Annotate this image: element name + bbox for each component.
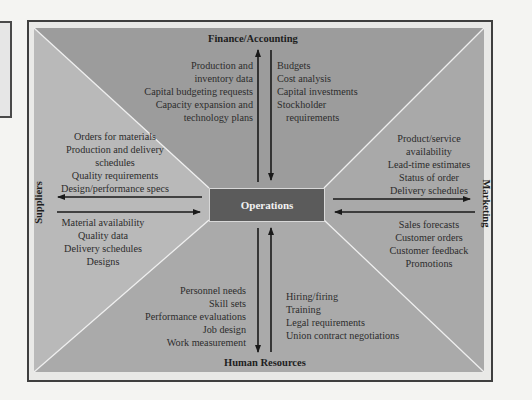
list-item: Delivery schedules bbox=[383, 184, 475, 197]
list-item: technology plans bbox=[144, 111, 253, 124]
list-item: Capacity expansion and bbox=[144, 98, 253, 111]
list-item: Training bbox=[286, 303, 399, 316]
list-item: Hiring/firing bbox=[286, 290, 399, 303]
list-item: Skill sets bbox=[145, 297, 246, 310]
operations-box: Operations bbox=[209, 188, 325, 222]
list-item: Legal requirements bbox=[286, 316, 399, 329]
list-item: Capital investments bbox=[277, 85, 358, 98]
list-item: Quality requirements bbox=[54, 169, 176, 182]
suppliers-outputs-list: Material availability Quality data Deliv… bbox=[56, 216, 150, 268]
list-item: Designs bbox=[56, 255, 150, 268]
marketing-heading: Marketing bbox=[481, 180, 492, 228]
list-item: Customer orders bbox=[383, 231, 475, 244]
suppliers-inputs-list: Orders for materials Production and deli… bbox=[54, 130, 176, 195]
hr-heading: Human Resources bbox=[224, 357, 306, 368]
list-item: Status of order bbox=[383, 171, 475, 184]
list-item: Budgets bbox=[277, 59, 358, 72]
list-item: Customer feedback bbox=[383, 244, 475, 257]
list-item: Lead-time estimates bbox=[383, 158, 475, 171]
list-item: Job design bbox=[145, 323, 246, 336]
list-item: requirements bbox=[277, 111, 358, 124]
list-item: Sales forecasts bbox=[383, 218, 475, 231]
list-item: Quality data bbox=[56, 229, 150, 242]
list-item: Cost analysis bbox=[277, 72, 358, 85]
hr-inputs-list: Personnel needs Skill sets Performance e… bbox=[145, 284, 246, 349]
list-item: Delivery schedules bbox=[56, 242, 150, 255]
finance-outputs-list: Budgets Cost analysis Capital investment… bbox=[277, 59, 358, 124]
list-item: Product/service bbox=[383, 132, 475, 145]
list-item: Promotions bbox=[383, 257, 475, 270]
list-item: Orders for materials bbox=[54, 130, 176, 143]
list-item: Design/performance specs bbox=[54, 182, 176, 195]
list-item: Stockholder bbox=[277, 98, 358, 111]
list-item: Material availability bbox=[56, 216, 150, 229]
suppliers-heading: Suppliers bbox=[33, 181, 44, 224]
list-item: inventory data bbox=[144, 72, 253, 85]
list-item: Personnel needs bbox=[145, 284, 246, 297]
list-item: availability bbox=[383, 145, 475, 158]
list-item: Production and bbox=[144, 59, 253, 72]
list-item: Union contract negotiations bbox=[286, 329, 399, 342]
finance-heading: Finance/Accounting bbox=[208, 33, 298, 44]
list-item: Production and delivery bbox=[54, 143, 176, 156]
list-item: schedules bbox=[54, 156, 176, 169]
list-item: Work measurement bbox=[145, 336, 246, 349]
operations-label: Operations bbox=[241, 199, 294, 211]
finance-inputs-list: Production and inventory data Capital bu… bbox=[144, 59, 253, 124]
hr-outputs-list: Hiring/firing Training Legal requirement… bbox=[286, 290, 399, 342]
list-item: Performance evaluations bbox=[145, 310, 246, 323]
marketing-outputs-list: Sales forecasts Customer orders Customer… bbox=[383, 218, 475, 270]
list-item: Capital budgeting requests bbox=[144, 85, 253, 98]
marketing-inputs-list: Product/service availability Lead-time e… bbox=[383, 132, 475, 197]
